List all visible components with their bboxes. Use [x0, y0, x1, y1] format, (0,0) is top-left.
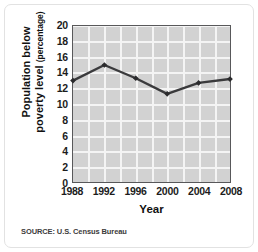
series-line [73, 65, 230, 94]
y-axis-tick: 4 [46, 146, 68, 157]
line-series [73, 26, 230, 182]
y-axis-title: Population below poverty level (percenta… [20, 6, 46, 138]
data-point-marker [196, 80, 202, 86]
x-axis-title: Year [72, 203, 231, 215]
y-axis-tick: 16 [46, 52, 68, 63]
figure-frame: 20181614121086420 1988199219962000200420… [4, 4, 254, 248]
y-axis-tick: 6 [46, 131, 68, 142]
y-axis-tick: 12 [46, 83, 68, 94]
y-axis-tick: 8 [46, 115, 68, 126]
x-axis-tick-labels: 198819921996200020042008 [72, 186, 231, 200]
x-axis-tick: 2008 [211, 186, 251, 197]
chart-figure: 20181614121086420 1988199219962000200420… [0, 0, 258, 252]
y-axis-tick: 10 [46, 99, 68, 110]
y-axis-title-unit: (percentage) [35, 11, 45, 62]
source-note: SOURCE: U.S. Census Bureau [21, 227, 127, 236]
data-point-marker [227, 76, 233, 82]
y-axis-tick: 14 [46, 67, 68, 78]
y-axis-tick: 2 [46, 162, 68, 173]
y-axis-tick-labels: 20181614121086420 [44, 25, 68, 183]
plot-area [72, 25, 231, 183]
y-axis-tick: 20 [46, 20, 68, 31]
y-axis-tick: 18 [46, 36, 68, 47]
